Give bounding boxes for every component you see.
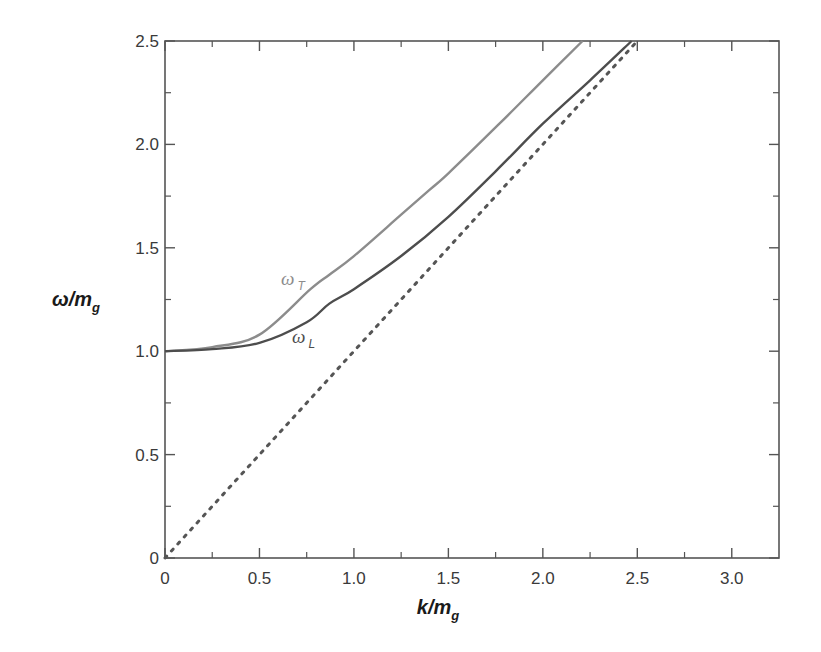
x-tick-label: 2.5 bbox=[625, 569, 649, 588]
x-axis-title: k/mg bbox=[417, 596, 459, 623]
omega-l-label: ωL bbox=[292, 326, 315, 351]
x-tick-label: 0 bbox=[160, 569, 169, 588]
y-tick-label: 1.0 bbox=[135, 342, 159, 361]
x-tick-label: 3.0 bbox=[720, 569, 744, 588]
omega-t-label: ωT bbox=[281, 268, 306, 293]
y-tick-label: 2.0 bbox=[135, 135, 159, 154]
series-group bbox=[165, 41, 637, 558]
x-axis-ticks: 00.51.01.52.02.53.0 bbox=[160, 41, 743, 588]
y-tick-label: 0 bbox=[150, 549, 159, 568]
x-tick-label: 0.5 bbox=[248, 569, 272, 588]
y-tick-label: 0.5 bbox=[135, 446, 159, 465]
y-axis-ticks: 00.51.01.52.02.5 bbox=[135, 32, 779, 568]
plot-frame bbox=[165, 41, 779, 558]
omega-t-curve bbox=[165, 41, 583, 351]
y-tick-label: 1.5 bbox=[135, 239, 159, 258]
light-cone-line bbox=[165, 41, 637, 558]
x-tick-label: 1.0 bbox=[342, 569, 366, 588]
y-axis-title: ω/mg bbox=[52, 288, 100, 315]
x-tick-label: 2.0 bbox=[531, 569, 555, 588]
x-tick-label: 1.5 bbox=[437, 569, 461, 588]
dispersion-chart: 00.51.01.52.02.53.0 00.51.01.52.02.5 k/m… bbox=[0, 0, 821, 652]
plot-border bbox=[165, 41, 779, 558]
y-tick-label: 2.5 bbox=[135, 32, 159, 51]
